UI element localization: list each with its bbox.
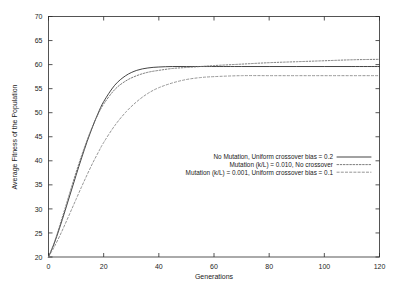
y-axis-ticks: 2025303540455055606570 (35, 13, 380, 261)
plot-canvas: 2025303540455055606570 020406080100120 G… (0, 0, 400, 292)
plot-frame (49, 17, 380, 258)
legend-label-1: No Mutation, Uniform crossover bias = 0.… (213, 153, 333, 160)
x-tick-label: 100 (318, 263, 330, 270)
x-axis-ticks: 020406080100120 (47, 17, 386, 271)
chart-figure: 2025303540455055606570 020406080100120 G… (0, 0, 400, 292)
x-tick-label: 20 (100, 263, 108, 270)
y-tick-label: 55 (35, 85, 43, 92)
x-tick-label: 120 (374, 263, 386, 270)
y-tick-label: 60 (35, 61, 43, 68)
x-axis-title: Generations (195, 273, 234, 280)
x-tick-label: 0 (47, 263, 51, 270)
y-tick-label: 25 (35, 230, 43, 237)
y-tick-label: 35 (35, 181, 43, 188)
chart-legend: No Mutation, Uniform crossover bias = 0.… (186, 153, 371, 176)
y-tick-label: 45 (35, 133, 43, 140)
legend-label-3: Mutation (k/L) = 0.001, Uniform crossove… (186, 169, 334, 177)
x-tick-label: 40 (155, 263, 163, 270)
x-tick-label: 80 (265, 263, 273, 270)
y-tick-label: 65 (35, 37, 43, 44)
y-tick-label: 30 (35, 206, 43, 213)
x-tick-label: 60 (210, 263, 218, 270)
y-tick-label: 50 (35, 109, 43, 116)
y-tick-label: 40 (35, 157, 43, 164)
y-axis-title: Average Fitness of the Population (11, 84, 19, 189)
y-tick-label: 70 (35, 13, 43, 20)
y-tick-label: 20 (35, 254, 43, 261)
